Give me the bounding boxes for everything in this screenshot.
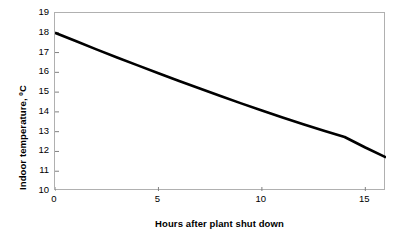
y-tick-label: 18 [27,27,49,37]
x-tick-label: 15 [349,194,379,204]
data-line [55,33,386,158]
y-tick-label: 17 [27,47,49,57]
line-plot-canvas [55,13,386,191]
x-axis-title: Hours after plant shut down [54,218,385,229]
x-tick-label: 10 [246,194,276,204]
y-tick-label: 12 [27,145,49,155]
x-tick-label: 0 [39,194,69,204]
y-tick-label: 11 [27,165,49,175]
chart-figure: Indoor temperature, ºC Hours after plant… [0,0,400,244]
y-tick-label: 15 [27,86,49,96]
y-tick-label: 19 [27,7,49,17]
x-tick-label: 5 [142,194,172,204]
y-tick-label: 16 [27,66,49,76]
y-tick-label: 13 [27,126,49,136]
y-tick-label: 14 [27,106,49,116]
plot-area [54,12,385,190]
y-axis-title: Indoor temperature, ºC [16,0,30,190]
